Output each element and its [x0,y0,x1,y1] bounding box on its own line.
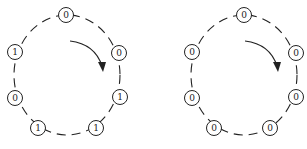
left-node-bottom-right: 1 [88,120,104,136]
right-node-upper-right: 0 [288,45,304,61]
right-ring-dashed-circle [191,15,297,135]
ring-connections [0,0,307,149]
left-node-upper-left: 1 [7,44,23,60]
right-node-top: 0 [236,7,252,23]
left-clockwise-arrow-icon [70,41,102,66]
right-node-lower-right: 0 [288,89,304,105]
ring-diagram: 0 0 1 1 1 0 1 0 0 0 0 0 0 0 [0,0,307,149]
right-node-bottom-right: 0 [262,120,278,136]
right-clockwise-arrow-icon [245,41,277,66]
left-node-lower-right: 1 [112,89,128,105]
right-node-bottom-left: 0 [206,120,222,136]
left-node-bottom-left: 1 [30,120,46,136]
left-ring-dashed-circle [14,15,120,135]
left-node-upper-right: 0 [111,45,127,61]
left-node-top: 0 [58,7,74,23]
right-arrowhead-icon [273,62,281,72]
left-arrowhead-icon [98,62,106,72]
left-node-lower-left: 0 [7,90,23,106]
right-node-upper-left: 0 [184,44,200,60]
right-node-lower-left: 0 [184,90,200,106]
